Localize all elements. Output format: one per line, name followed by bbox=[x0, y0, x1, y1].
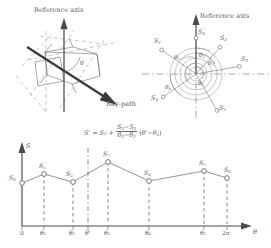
y-axis-arrowhead bbox=[19, 144, 24, 152]
x-tick-label-theta3: θ₃ bbox=[104, 229, 110, 236]
panel-bottom-chart: S' = S2 + S3−S2 θ3−θ2 (θ'−θ2) bbox=[0, 118, 271, 248]
polar-label-s1: S1 bbox=[154, 37, 161, 45]
polar-label-s1-sub: 1 bbox=[158, 40, 161, 45]
ray-path-label: Ray-path bbox=[106, 100, 136, 108]
x-axis-arrowhead bbox=[242, 223, 250, 228]
x-tick-label-theta1: θ₁ bbox=[40, 229, 46, 236]
polar-angle-theta4-sub: 4 bbox=[169, 87, 171, 91]
equation-equals: = bbox=[92, 129, 97, 137]
data-point-s2 bbox=[71, 180, 76, 185]
reference-axis-label-left: Reference axis bbox=[34, 6, 83, 14]
data-point-s3 bbox=[106, 160, 111, 165]
point-label-s5: S5 bbox=[199, 159, 206, 167]
point-label-s2-sub: 2 bbox=[70, 173, 72, 178]
equation-factor: (θ'−θ2) bbox=[139, 129, 161, 137]
point-label-s4: S4 bbox=[144, 169, 151, 177]
polar-label-s5: S5 bbox=[219, 104, 226, 112]
equation-denominator: θ3−θ2 bbox=[116, 132, 137, 139]
polar-angle-label-theta2: θ2 bbox=[199, 52, 205, 59]
point-label-s1: S1 bbox=[39, 162, 46, 170]
polar-label-s3: S3 bbox=[241, 55, 248, 63]
panel-top-right: Reference axis S0 S1 S2 S3 S4 S5 θ1 θ2 θ… bbox=[140, 0, 271, 118]
polar-label-s2: S2 bbox=[220, 34, 227, 42]
equation-plus: + bbox=[109, 129, 114, 137]
lattice-edge-g bbox=[45, 52, 97, 54]
lattice-dashed-1 bbox=[40, 36, 104, 44]
equation-lhs: S' bbox=[84, 129, 90, 137]
data-point-s6 bbox=[225, 176, 230, 181]
polar-label-s4: S4 bbox=[151, 94, 158, 102]
point-label-s6-sub: 0 bbox=[228, 169, 230, 174]
x-tick-label-theta4: θ₄ bbox=[145, 229, 151, 236]
point-label-s0: S0 bbox=[9, 174, 16, 182]
polar-label-s0-sub: 0 bbox=[202, 31, 205, 36]
angle-theta-label-left: θ bbox=[80, 59, 84, 66]
polar-label-s2-sub: 2 bbox=[224, 37, 227, 42]
x-tick-marks bbox=[22, 226, 227, 230]
point-label-s1-sub: 1 bbox=[43, 165, 45, 170]
figure-container: Reference axis Ray-path θ bbox=[0, 0, 271, 248]
polar-vector-s3 bbox=[196, 66, 239, 74]
data-point-s1 bbox=[42, 172, 47, 177]
lattice-edge-b bbox=[69, 38, 73, 47]
num-s2-sub: 2 bbox=[134, 126, 137, 131]
data-point-s0 bbox=[20, 181, 25, 186]
polar-angle-label-theta1: θ1 bbox=[174, 54, 180, 61]
polar-angle-theta2-sub: 2 bbox=[203, 55, 205, 59]
point-label-s2: S2 bbox=[66, 170, 73, 178]
point-label-s3: S3 bbox=[103, 150, 110, 158]
angle-arc-theta-left bbox=[64, 57, 80, 72]
polar-label-s0: S0 bbox=[198, 28, 205, 36]
polar-label-s3-sub: 3 bbox=[245, 58, 248, 63]
polar-angle-label-theta5: θ5 bbox=[198, 80, 204, 87]
point-label-s3-sub: 3 bbox=[107, 153, 109, 158]
x-tick-label-theta5: θ₅ bbox=[200, 229, 206, 236]
reference-axis-label-right: Reference axis bbox=[200, 12, 249, 20]
lattice-edge-f bbox=[97, 54, 100, 76]
polar-label-s4-sub: 4 bbox=[155, 97, 158, 102]
x-tick-label-0: 0 bbox=[20, 229, 24, 236]
polar-angle-label-theta3: θ3 bbox=[208, 60, 214, 67]
den-theta2-sub: 2 bbox=[133, 134, 136, 139]
polar-angle-theta3-sub: 3 bbox=[212, 63, 214, 67]
data-point-s5 bbox=[202, 169, 207, 174]
data-point-s4 bbox=[147, 179, 152, 184]
x-tick-label-theta2: θ₂ bbox=[69, 229, 75, 236]
interpolation-equation: S' = S2 + S3−S2 θ3−θ2 (θ'−θ2) bbox=[84, 124, 162, 140]
x-tick-label-2pi: 2π bbox=[222, 229, 230, 236]
ray-path-arrow bbox=[27, 47, 114, 103]
point-label-s5-sub: 5 bbox=[203, 162, 205, 167]
polar-marker-s4 bbox=[161, 95, 165, 99]
polar-label-s5-sub: 5 bbox=[223, 107, 226, 112]
data-point-markers bbox=[20, 160, 230, 186]
angle-arc-theta2 bbox=[196, 48, 210, 51]
polar-marker-s0 bbox=[194, 36, 198, 40]
x-tick-label-theta-prime: θ' bbox=[85, 229, 90, 236]
panel-top-left: Reference axis Ray-path θ bbox=[0, 0, 140, 118]
point-label-s4-sub: 4 bbox=[148, 172, 150, 177]
polar-marker-s3 bbox=[237, 65, 241, 69]
polar-angle-label-theta4: θ4 bbox=[165, 84, 171, 91]
polar-marker-s2 bbox=[218, 45, 222, 49]
equation-fraction: S3−S2 θ3−θ2 bbox=[116, 124, 137, 140]
point-label-s0-sub: 0 bbox=[13, 177, 15, 182]
equation-term1-sub: 2 bbox=[104, 131, 107, 136]
polar-marker-s1 bbox=[160, 48, 164, 52]
factor-close-paren: ) bbox=[159, 129, 162, 137]
point-label-s6: S0 bbox=[224, 166, 231, 174]
s-theta-polyline bbox=[22, 162, 227, 183]
reference-axis-arrow-left bbox=[61, 20, 67, 112]
lattice-dashed-4 bbox=[60, 40, 104, 108]
y-axis-label: S bbox=[26, 142, 31, 150]
polar-angle-theta5-sub: 5 bbox=[202, 83, 204, 87]
polar-angle-theta1-sub: 1 bbox=[178, 57, 180, 61]
x-axis-label: θ bbox=[253, 228, 257, 236]
